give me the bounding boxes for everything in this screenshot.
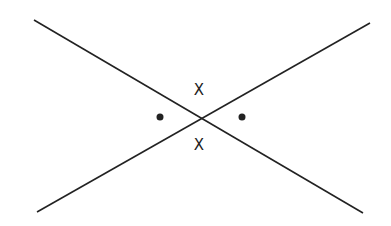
- vertical-angles-diagram: X X: [0, 0, 391, 226]
- angle-dot-right: [239, 114, 246, 121]
- angle-label-bottom: X: [194, 136, 204, 154]
- angle-label-top: X: [194, 81, 204, 99]
- line-descending: [34, 20, 363, 213]
- angle-dot-left: [157, 114, 164, 121]
